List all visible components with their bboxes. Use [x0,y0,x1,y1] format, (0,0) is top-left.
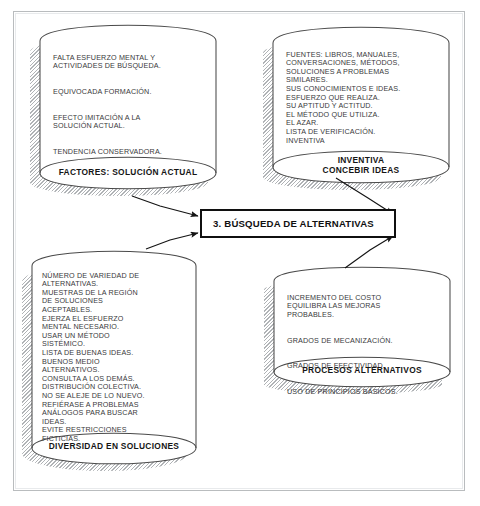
node-procesos-alternativos: INCREMENTO DEL COSTO EQUILIBRA LAS MEJOR… [273,266,451,388]
node-label: FACTORES: SOLUCIÓN ACTUAL [39,167,217,177]
text-block: USO DE PRINCIPIOS BÁSICOS. [287,388,437,397]
text-block: EQUIVOCADA FORMACIÓN. [53,88,203,97]
text-block: NÚMERO DE VARIEDAD DE ALTERNATIVAS. MUES… [42,272,186,444]
center-process-label: 3. BÚSQUEDA DE ALTERNATIVAS [202,218,374,229]
node-inventiva-concebir-ideas: FUENTES: LIBROS, MANUALES, CONVERSACIONE… [272,26,450,184]
text-block: GRADOS DE MECANIZACIÓN. [287,337,437,346]
center-process-box: 3. BÚSQUEDA DE ALTERNATIVAS [200,209,396,238]
text-block: FALTA ESFUERZO MENTAL Y ACTIVIDADES DE B… [53,54,203,71]
node-label: INVENTIVA CONCEBIR IDEAS [272,155,450,175]
text-block: INCREMENTO DEL COSTO EQUILIBRA LAS MEJOR… [287,294,437,320]
node-label: PROCESOS ALTERNATIVOS [273,365,451,375]
text-block: FUENTES: LIBROS, MANUALES, CONVERSACIONE… [286,51,436,146]
node-body-text: FALTA ESFUERZO MENTAL Y ACTIVIDADES DE B… [39,45,217,165]
node-factores-solucion-actual: FALTA ESFUERZO MENTAL Y ACTIVIDADES DE B… [39,24,217,190]
text-block: EFECTO IMITACIÓN A LA SOLUCIÓN ACTUAL. [53,114,203,131]
node-body-text: NÚMERO DE VARIEDAD DE ALTERNATIVAS. MUES… [31,263,197,452]
text-block: TENDENCIA CONSERVADORA. [53,148,203,157]
node-diversidad-en-soluciones: NÚMERO DE VARIEDAD DE ALTERNATIVAS. MUES… [31,250,197,465]
node-body-text: FUENTES: LIBROS, MANUALES, CONVERSACIONE… [272,42,450,154]
node-body-text: INCREMENTO DEL COSTO EQUILIBRA LAS MEJOR… [273,285,451,405]
node-label: DIVERSIDAD EN SOLUCIONES [31,441,197,451]
